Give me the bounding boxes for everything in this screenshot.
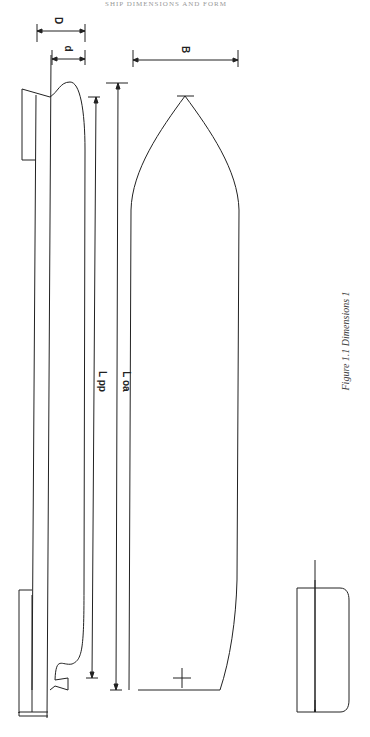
label-plan-breadth: B [180,46,191,53]
figure-caption: Figure 1.1 Dimensions 1 [340,301,351,391]
plan-view [129,96,239,690]
label-length-oa: L oa [121,371,132,391]
ship-dimensions-diagram [0,0,370,737]
label-profile-draught: d [63,45,74,51]
profile-dimensions [37,24,85,65]
profile-view [19,55,85,718]
label-length-pp: L pp [97,371,108,392]
label-profile-depth: D [53,17,64,24]
midship-section [297,560,349,714]
